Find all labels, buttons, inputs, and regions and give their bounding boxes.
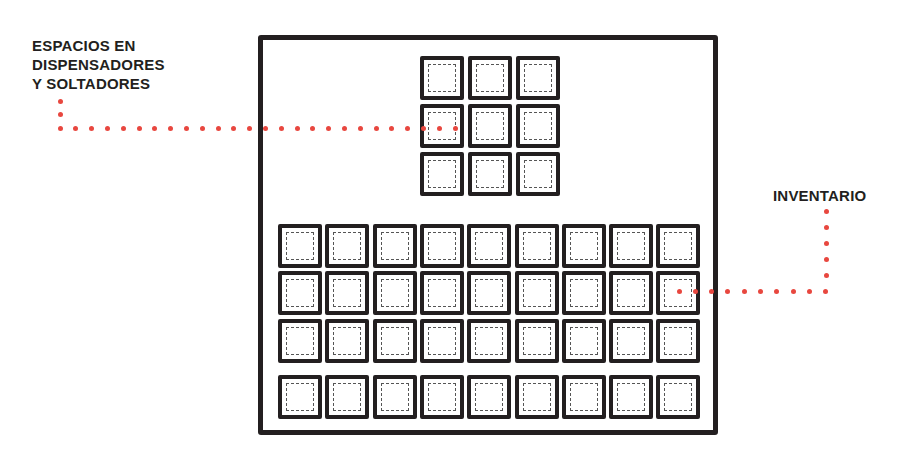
dispenser-slot[interactable] (420, 56, 464, 100)
leader-dot (58, 126, 63, 131)
dispenser-slot[interactable] (516, 56, 560, 100)
leader-dot (677, 289, 682, 294)
leader-dot (824, 225, 829, 230)
leader-dot (58, 99, 63, 104)
leader-dot (758, 289, 763, 294)
inventory-slot[interactable] (562, 224, 606, 268)
leader-dot (137, 126, 142, 131)
leader-dot (774, 289, 779, 294)
leader-dot (405, 126, 410, 131)
hotbar-slot[interactable] (278, 375, 322, 419)
inventory-slot[interactable] (420, 319, 464, 363)
leader-dot (247, 126, 252, 131)
inventory-slot[interactable] (515, 224, 559, 268)
inventory-slot[interactable] (609, 271, 653, 315)
inventory-slot[interactable] (373, 319, 417, 363)
dispenser-slot[interactable] (468, 56, 512, 100)
leader-dot (693, 289, 698, 294)
leader-dot (742, 289, 747, 294)
inventory-slot[interactable] (515, 319, 559, 363)
inventory-slot[interactable] (467, 224, 511, 268)
hotbar-slot[interactable] (373, 375, 417, 419)
leader-dot (326, 126, 331, 131)
leader-dot (421, 126, 426, 131)
leader-dot (152, 126, 157, 131)
leader-dot (231, 126, 236, 131)
leader-dot (709, 289, 714, 294)
inventory-label: INVENTARIO (773, 186, 866, 205)
inventory-slot[interactable] (325, 319, 369, 363)
inventory-slot[interactable] (656, 224, 700, 268)
dispenser-slots-label: ESPACIOS EN DISPENSADORES Y SOLTADORES (32, 36, 165, 93)
inventory-slot[interactable] (562, 319, 606, 363)
leader-dot (389, 126, 394, 131)
inventory-slot[interactable] (278, 319, 322, 363)
hotbar-slot[interactable] (515, 375, 559, 419)
dispenser-slot[interactable] (516, 152, 560, 196)
leader-dot (295, 126, 300, 131)
leader-dot (725, 289, 730, 294)
leader-dot (358, 126, 363, 131)
leader-dot (58, 112, 63, 117)
inventory-slot[interactable] (562, 271, 606, 315)
leader-dot (279, 126, 284, 131)
leader-dot (216, 126, 221, 131)
leader-dot (374, 126, 379, 131)
inventory-slot[interactable] (467, 271, 511, 315)
dispenser-slot[interactable] (420, 152, 464, 196)
dispenser-slot[interactable] (468, 152, 512, 196)
inventory-slot[interactable] (325, 271, 369, 315)
inventory-slot[interactable] (278, 271, 322, 315)
inventory-slot[interactable] (609, 319, 653, 363)
leader-dot (121, 126, 126, 131)
inventory-slot[interactable] (420, 271, 464, 315)
leader-dot (824, 241, 829, 246)
hotbar-slot[interactable] (325, 375, 369, 419)
leader-dot (200, 126, 205, 131)
inventory-slot[interactable] (467, 319, 511, 363)
inventory-slot[interactable] (278, 224, 322, 268)
hotbar-slot[interactable] (656, 375, 700, 419)
leader-dot (824, 273, 829, 278)
leader-dot (823, 289, 828, 294)
hotbar-slot[interactable] (562, 375, 606, 419)
leader-dot (453, 126, 458, 131)
leader-dot (791, 289, 796, 294)
inventory-slot[interactable] (515, 271, 559, 315)
inventory-slot[interactable] (609, 224, 653, 268)
hotbar-slot[interactable] (420, 375, 464, 419)
leader-dot (437, 126, 442, 131)
leader-dot (73, 126, 78, 131)
hotbar-slot[interactable] (609, 375, 653, 419)
inventory-slot[interactable] (656, 319, 700, 363)
inventory-slot[interactable] (325, 224, 369, 268)
inventory-slot[interactable] (373, 224, 417, 268)
leader-dot (824, 209, 829, 214)
leader-dot (310, 126, 315, 131)
leader-dot (89, 126, 94, 131)
dispenser-slot[interactable] (516, 104, 560, 148)
hotbar-slot[interactable] (467, 375, 511, 419)
leader-dot (807, 289, 812, 294)
leader-dot (263, 126, 268, 131)
leader-dot (824, 257, 829, 262)
leader-dot (168, 126, 173, 131)
inventory-slot[interactable] (420, 224, 464, 268)
leader-dot (184, 126, 189, 131)
inventory-slot[interactable] (373, 271, 417, 315)
dispenser-slot[interactable] (468, 104, 512, 148)
leader-dot (342, 126, 347, 131)
leader-dot (105, 126, 110, 131)
